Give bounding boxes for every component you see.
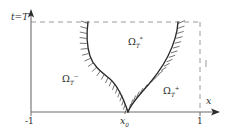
figure-canvas [0, 0, 229, 137]
omega-superscript: + [175, 85, 180, 91]
omega-glyph: Ω [62, 73, 70, 84]
tick-label-x0-sub: 0 [125, 122, 129, 128]
top-line-label: t=T [11, 13, 28, 22]
omega-glyph: Ω [128, 36, 136, 47]
x-axis-label: x [206, 96, 211, 106]
omega-superscript: * [140, 36, 143, 42]
region-label-omega-minus: ΩT− [62, 74, 78, 87]
left-boundary-curve [87, 22, 128, 112]
region-label-omega-star: ΩT* [128, 37, 143, 50]
omega-subscript: T [136, 43, 140, 49]
x-axis-label-text: x [206, 95, 211, 106]
tick-label-x0: x0 [120, 116, 129, 129]
omega-superscript: − [74, 73, 79, 79]
tick-label-minus-one: -1 [25, 117, 34, 126]
tick-label-one: 1 [197, 117, 203, 126]
omega-glyph: Ω [163, 85, 171, 96]
tick-label-one-text: 1 [197, 116, 203, 126]
omega-subscript: T [171, 92, 175, 98]
region-label-omega-plus: ΩT+ [163, 86, 179, 99]
top-line-label-text: t=T [11, 12, 28, 22]
tick-label-minus-one-text: -1 [25, 116, 34, 126]
figure-container: t=T x -1 x0 1 ΩT− ΩT* ΩT+ [0, 0, 229, 137]
omega-subscript: T [70, 80, 74, 86]
